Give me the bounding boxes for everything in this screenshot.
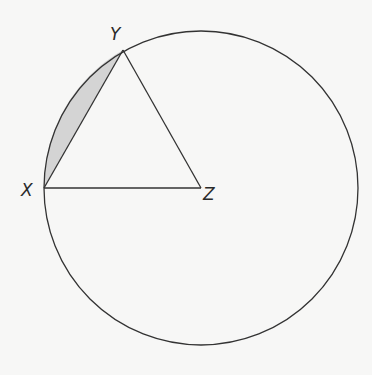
label-y: Y (110, 24, 122, 44)
segment-xy (44, 50, 123, 188)
label-z: Z (202, 184, 215, 204)
segment-yz (123, 50, 201, 188)
label-x: X (20, 180, 33, 200)
geometry-diagram: X Y Z (0, 0, 372, 375)
